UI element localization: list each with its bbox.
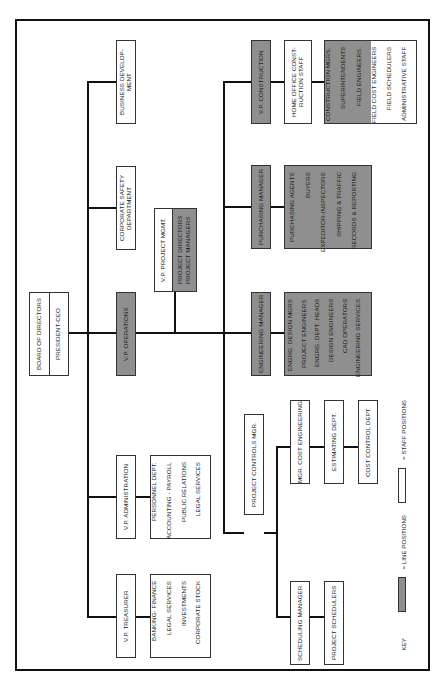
connector-right-spine	[223, 81, 225, 534]
project-controls-mgr-label: PROJECT CONTROLS MGR.	[245, 415, 263, 514]
admin-item: PERSONNEL DEPT.	[151, 456, 158, 538]
connector-cost-eng	[276, 446, 290, 448]
admin-item: PUBLIC RELATIONS	[181, 456, 188, 538]
admin-item: ACCOUNTING - PAYROLL	[166, 456, 173, 538]
purchasing-item: PURCHASING AGENTS	[289, 166, 296, 248]
connector-construction	[223, 81, 251, 83]
vp-construction-label: V.P. CONSTRUCTION	[252, 41, 270, 123]
treasurer-item: INVESTMENTS	[181, 575, 188, 657]
engineering-manager-label: ENGINEERING MANAGER	[252, 293, 270, 375]
connector-construction-list	[312, 81, 324, 83]
engineering-item: ENGRG. DEPT. HEADS	[314, 293, 321, 375]
key-label: KEY	[400, 638, 407, 650]
staff-position-swatch	[398, 468, 406, 503]
engineering-item: ENGRG. DESIGN MGRS	[287, 293, 294, 375]
connector-engineering-list	[271, 332, 284, 334]
purchasing-manager-label: PURCHASING MANAGER	[252, 166, 270, 248]
connector-treasurer-list	[136, 616, 150, 618]
engineering-item: ENGINEERING SERVICES	[355, 293, 362, 375]
home-office-construction-label: HOME OFFICE CONST- RUCTION STAFF	[285, 41, 311, 123]
connector-project-mgmt-stem	[174, 291, 176, 333]
cost-control-dept-label: COST CONTROL DEPT.	[359, 401, 377, 483]
connector-admin-list	[136, 496, 150, 498]
project-schedulers-label: PROJECT SCHEDULERS	[325, 582, 343, 664]
vp-operations-box: V.P. OPERATIONS	[116, 292, 136, 376]
connector-home-office	[271, 81, 284, 83]
connector-purchasing	[223, 206, 251, 208]
connector-vp-treasurer	[87, 616, 116, 618]
connector-pc-spine	[276, 446, 278, 618]
purchasing-item: SHIPPING & TRAFFIC	[336, 166, 343, 248]
construction-line-item: SUPERINTENDENTS	[340, 41, 347, 123]
vp-project-mgmt-box: V.P. PROJECT MGMT. PROJECT DIRECTORS PRO…	[154, 208, 197, 292]
purchasing-item: BUYERS	[305, 166, 312, 248]
treasurer-item: CORPORATE STOCK	[195, 575, 202, 657]
mgr-cost-engineering-label: MGR. COST ENGINEERING	[291, 401, 309, 483]
treasurer-item: LEGAL SERVICES	[166, 575, 173, 657]
connector-business-dev	[87, 81, 116, 83]
construction-line-item: FIELD ENGINEERS.	[356, 41, 363, 123]
corporate-safety-label: CORPORATE SAFETY DEPARTMENT	[117, 167, 135, 249]
connector-schedulers	[310, 616, 324, 618]
connector-estimating	[310, 446, 324, 448]
engineering-item: PROJECT ENGINEERS	[301, 293, 308, 375]
vp-treasurer-box: V.P. TREASURER	[116, 574, 136, 658]
connector-vp-admin	[87, 496, 116, 498]
purchasing-item: EXPEDITOR-INSPECTORS	[320, 166, 327, 248]
purchasing-manager-box: PURCHASING MANAGER	[251, 165, 271, 249]
construction-staff-item: ADMINISTRATIVE STAFF	[401, 41, 408, 123]
purchasing-list-box: PURCHASING AGENTS BUYERS EXPEDITOR-INSPE…	[284, 165, 372, 249]
board-president-box: BOARD OF DIRECTORS PRESIDENT-CEO	[29, 292, 69, 376]
line-positions-label: = LINE POSITIONS	[400, 515, 407, 570]
construction-staff-item: FIELD COST ENGINEERS	[371, 41, 378, 123]
connector-purchasing-list	[271, 206, 284, 208]
estimating-dept-box: ESTIMATING DEPT.	[324, 400, 344, 484]
staff-positions-label: = STAFF POSITIONS	[400, 400, 407, 460]
connector-project-controls	[223, 532, 244, 534]
project-directors-label: PROJECT DIRECTORS	[177, 209, 184, 291]
home-office-construction-box: HOME OFFICE CONST- RUCTION STAFF	[284, 40, 312, 124]
connector-corp-safety	[87, 207, 116, 209]
connector-scheduling	[276, 616, 290, 618]
vp-administration-label: V.P. ADMINISTRATION	[117, 456, 135, 538]
board-of-directors-label: BOARD OF DIRECTORS	[36, 293, 43, 375]
engineering-manager-box: ENGINEERING MANAGER	[251, 292, 271, 376]
mgr-cost-engineering-box: MGR. COST ENGINEERING	[290, 400, 310, 484]
vp-operations-label: V.P. OPERATIONS	[117, 293, 135, 375]
president-ceo-label: PRESIDENT-CEO	[55, 293, 62, 375]
vp-administration-box: V.P. ADMINISTRATION	[116, 455, 136, 539]
vp-treasurer-label: V.P. TREASURER	[117, 575, 135, 657]
business-development-box: BUSINESS DEVELOP- MENT	[116, 40, 136, 124]
engineering-item: DESIGN ENGINEERS	[328, 293, 335, 375]
project-schedulers-box: PROJECT SCHEDULERS	[324, 581, 344, 665]
construction-staff-item: FIELD SCHEDULERS	[386, 41, 393, 123]
purchasing-item: RECORDS & REPORTING	[351, 166, 358, 248]
line-position-swatch	[398, 577, 406, 612]
scheduling-manager-box: SCHEDULING MANAGER	[290, 581, 310, 665]
scheduling-manager-label: SCHEDULING MANAGER	[291, 582, 309, 664]
treasurer-list-box: BANKING- FINANCE LEGAL SERVICES INVESTME…	[150, 574, 211, 658]
vp-construction-box: V.P. CONSTRUCTION	[251, 40, 271, 124]
corporate-safety-box: CORPORATE SAFETY DEPARTMENT	[116, 166, 136, 250]
administration-list-box: PERSONNEL DEPT. ACCOUNTING - PAYROLL PUB…	[150, 455, 211, 539]
connector-left-spine	[87, 81, 89, 618]
estimating-dept-label: ESTIMATING DEPT.	[325, 401, 343, 483]
connector-cost-control	[344, 446, 358, 448]
treasurer-item: BANKING- FINANCE	[151, 575, 158, 657]
construction-line-item: CONSTRUCTION MGRS.	[325, 41, 332, 123]
engineering-list-box: ENGRG. DESIGN MGRS PROJECT ENGINEERS ENG…	[284, 292, 372, 376]
business-development-label: BUSINESS DEVELOP- MENT	[117, 41, 135, 123]
cost-control-dept-box: COST CONTROL DEPT.	[358, 400, 378, 484]
engineering-item: CAD OPERATORS	[342, 293, 349, 375]
project-managers-label: PROJECT MANAGERS	[185, 209, 192, 291]
admin-item: LEGAL SERVICES	[195, 456, 202, 538]
construction-list-box: CONSTRUCTION MGRS. SUPERINTENDENTS FIELD…	[324, 40, 417, 124]
project-controls-mgr-box: PROJECT CONTROLS MGR.	[244, 414, 264, 515]
vp-project-mgmt-label: V.P. PROJECT MGMT.	[160, 209, 167, 291]
